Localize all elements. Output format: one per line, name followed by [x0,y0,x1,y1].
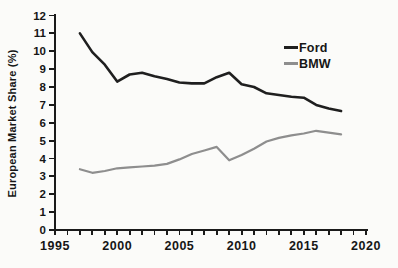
y-tick-label: 0 [40,224,46,236]
y-tick-label: 6 [40,117,46,129]
legend-label-ford: Ford [299,41,328,55]
y-tick-label: 8 [40,81,47,93]
line-chart-figure: 1995200020052010201520200123456789101112… [0,0,398,268]
x-tick-label: 2015 [289,239,319,253]
y-tick-label: 7 [40,99,46,111]
bmw-line-swatch [284,62,298,65]
y-tick-label: 5 [40,135,47,147]
y-tick-label: 4 [40,153,47,165]
legend-entry-bmw: BMW [284,57,331,70]
x-tick-label: 2000 [102,239,132,253]
x-tick-label: 2020 [351,239,381,253]
legend-label-bmw: BMW [299,57,331,71]
legend: Ford BMW [284,41,331,70]
legend-entry-ford: Ford [284,41,331,54]
x-tick-label: 1995 [40,239,70,253]
x-tick-label: 2010 [227,239,257,253]
y-tick-label: 12 [33,10,46,22]
y-axis-title: European Market Share (%) [6,48,21,200]
y-tick-label: 11 [34,27,47,39]
ford-line-swatch [284,46,298,49]
y-tick-label: 10 [33,45,46,57]
y-tick-label: 3 [40,170,46,182]
y-tick-label: 2 [40,188,46,200]
bmw-series-line [80,131,341,173]
y-tick-label: 9 [40,63,46,75]
x-tick-label: 2005 [164,239,194,253]
chart-canvas: 1995200020052010201520200123456789101112 [0,0,398,268]
y-tick-label: 1 [40,206,47,218]
